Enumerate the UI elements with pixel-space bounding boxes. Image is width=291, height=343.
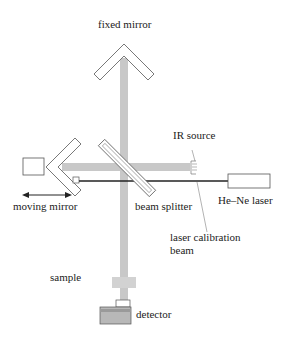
- label-fixed-mirror: fixed mirror: [98, 18, 152, 30]
- label-he-ne-laser: He–Ne laser: [218, 194, 273, 206]
- ftir-diagram: fixed mirror IR source moving mirror bea…: [0, 0, 291, 343]
- label-sample: sample: [50, 271, 81, 283]
- ir-source: [191, 161, 197, 174]
- label-beam-splitter: beam splitter: [135, 200, 192, 212]
- double-arrow-icon: [22, 192, 72, 198]
- detector: [100, 300, 131, 324]
- label-detector: detector: [136, 308, 172, 320]
- ir-source-leader: [192, 150, 195, 161]
- laser-calibration-leader: [197, 182, 207, 232]
- moving-mirror-actuator: [23, 158, 44, 175]
- moving-mirror-tab: [73, 177, 79, 183]
- sample: [112, 277, 136, 288]
- label-laser-calibration-beam: beam: [170, 244, 194, 256]
- label-moving-mirror: moving mirror: [13, 200, 78, 212]
- label-laser-calibration: laser calibration: [170, 231, 241, 243]
- label-ir-source: IR source: [173, 129, 216, 141]
- he-ne-laser: [228, 174, 270, 188]
